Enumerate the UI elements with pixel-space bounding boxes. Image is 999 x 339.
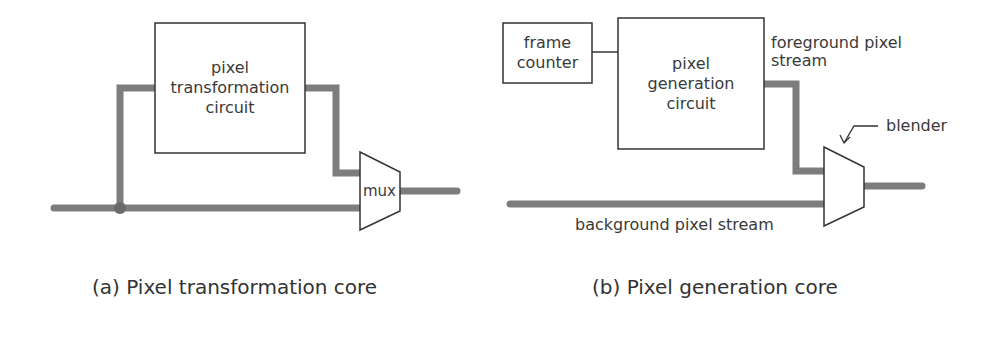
frame-counter-label: frame counter <box>503 23 592 83</box>
mux-label: mux <box>363 182 396 201</box>
pixel-generation-circuit-label: pixel generation circuit <box>618 18 764 149</box>
background-stream-label: background pixel stream <box>575 215 774 234</box>
caption-b: (b) Pixel generation core <box>592 275 838 299</box>
box-label-line: circuit <box>618 94 764 114</box>
blender-label: blender <box>886 116 947 135</box>
pixel-transformation-circuit-label: pixel transformation circuit <box>155 23 305 153</box>
box-label-line: generation <box>618 74 764 94</box>
foreground-stream-label: foreground pixel stream <box>771 34 902 70</box>
blender-shape <box>824 147 864 226</box>
box-label-line: counter <box>503 53 592 73</box>
box-label-line: pixel <box>155 58 305 78</box>
junction-dot <box>114 202 126 214</box>
label-line: stream <box>771 52 902 70</box>
box-label-line: pixel <box>618 54 764 74</box>
caption-a: (a) Pixel transformation core <box>92 275 377 299</box>
box-label-line: circuit <box>155 98 305 118</box>
label-line: foreground pixel <box>771 34 902 52</box>
blender-pointer-arrow <box>840 126 878 143</box>
box-label-line: transformation <box>155 78 305 98</box>
box-label-line: frame <box>503 33 592 53</box>
